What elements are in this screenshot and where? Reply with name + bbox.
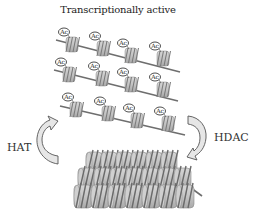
acetyl-tag: Ac — [59, 28, 71, 38]
acetyl-tag: Ac — [95, 97, 107, 107]
nucleosome: Ac — [59, 28, 80, 52]
acetyl-tag: Ac — [118, 39, 130, 49]
acetyl-tag: Ac — [150, 42, 162, 52]
acetyl-tag: Ac — [89, 62, 101, 72]
svg-text:Ac: Ac — [124, 104, 133, 111]
hat-arrow-icon — [37, 116, 58, 164]
nucleosome: Ac — [124, 104, 145, 128]
nucleosome: Ac — [155, 107, 176, 131]
svg-text:Ac: Ac — [90, 32, 99, 39]
nucleosome: Ac — [118, 39, 139, 63]
svg-text:Ac: Ac — [95, 97, 104, 104]
svg-text:Ac: Ac — [59, 28, 68, 35]
svg-text:Ac: Ac — [155, 107, 164, 114]
nucleosome: Ac — [95, 97, 116, 121]
svg-text:Ac: Ac — [63, 93, 72, 100]
svg-text:Ac: Ac — [118, 68, 127, 75]
acetyl-tag: Ac — [150, 73, 162, 83]
acetylated-nucleosome-array: AcAcAcAcAcAcAcAcAcAcAcAc — [54, 28, 185, 135]
svg-text:Ac: Ac — [118, 39, 127, 46]
svg-text:Ac: Ac — [89, 62, 98, 69]
acetyl-tag: Ac — [90, 32, 102, 42]
acetyl-tag: Ac — [118, 68, 130, 78]
acetyl-tag: Ac — [155, 107, 167, 117]
nucleosome: Ac — [90, 32, 111, 56]
nucleosome: Ac — [63, 93, 84, 117]
condensed-chromatin-fiber — [74, 150, 202, 208]
svg-text:Ac: Ac — [150, 42, 159, 49]
hdac-arrow-icon — [187, 116, 206, 160]
nucleosome: Ac — [150, 73, 171, 97]
chromatin-diagram: AcAcAcAcAcAcAcAcAcAcAcAc — [0, 0, 256, 224]
nucleosome: Ac — [118, 68, 139, 92]
nucleosome: Ac — [150, 42, 171, 66]
svg-text:Ac: Ac — [56, 58, 65, 65]
acetyl-tag: Ac — [56, 58, 68, 68]
svg-text:Ac: Ac — [150, 73, 159, 80]
acetyl-tag: Ac — [63, 93, 75, 103]
acetyl-tag: Ac — [124, 104, 136, 114]
nucleosome: Ac — [56, 58, 77, 82]
nucleosome: Ac — [89, 62, 110, 86]
